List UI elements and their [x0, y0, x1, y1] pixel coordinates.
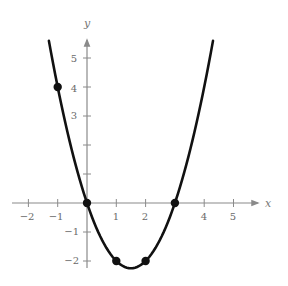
y-axis-label: y — [83, 17, 91, 30]
data-point — [83, 199, 91, 207]
data-point — [141, 257, 149, 265]
x-tick-label: 5 — [230, 211, 236, 222]
y-tick-label: −1 — [64, 226, 79, 237]
x-tick-label: 4 — [201, 211, 207, 222]
x-tick-label: 2 — [142, 211, 148, 222]
y-tick-label: 5 — [71, 53, 77, 64]
x-tick-label: 1 — [113, 211, 119, 222]
parabola-graph: −2 −1 1 2 4 5 5 4 3 −1 −2 x y — [0, 0, 288, 286]
x-tick-label: −2 — [20, 211, 35, 222]
data-point — [112, 257, 120, 265]
x-axis-label: x — [265, 197, 272, 210]
x-tick-label: −1 — [49, 211, 64, 222]
data-point — [54, 83, 62, 91]
y-tick-label: 4 — [71, 83, 77, 94]
data-point — [171, 199, 179, 207]
y-tick-label: −2 — [64, 255, 79, 266]
y-tick-label: 3 — [71, 110, 77, 121]
